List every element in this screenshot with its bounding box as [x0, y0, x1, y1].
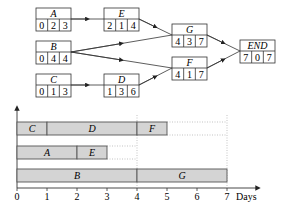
node-value: 6 [131, 86, 136, 97]
arrow-icon [71, 52, 122, 60]
node-value: 3 [187, 36, 192, 47]
node-title: F [185, 57, 193, 68]
node-value: 2 [107, 20, 112, 31]
node-a: A023 [36, 8, 71, 31]
x-tick-label: 2 [75, 191, 80, 202]
node-value: 2 [51, 20, 56, 31]
bar-label: E [88, 147, 95, 158]
node-title: END [247, 40, 269, 51]
node-c: C013 [36, 74, 71, 97]
bar-label: G [178, 170, 185, 181]
node-value: 4 [131, 20, 136, 31]
node-value: 7 [199, 36, 204, 47]
diagram-canvas: A023B044C013E214D136G437F417END707 01234… [0, 0, 288, 214]
gantt-row: AE [17, 146, 137, 159]
x-tick-label: 6 [195, 191, 200, 202]
node-title: A [49, 8, 57, 19]
node-value: 3 [119, 86, 124, 97]
node-value: 0 [39, 53, 44, 64]
node-value: 4 [175, 69, 180, 80]
node-value: 3 [63, 20, 68, 31]
arrow-icon [207, 60, 224, 69]
node-value: 0 [39, 86, 44, 97]
gantt-row: CDF [17, 122, 227, 135]
x-tick-label: 5 [165, 191, 170, 202]
x-axis-label: Days [236, 191, 257, 202]
node-title: E [117, 8, 124, 19]
node-value: 0 [255, 52, 260, 63]
node-g: G437 [172, 24, 207, 47]
x-tick-label: 7 [225, 191, 230, 202]
network-edges [71, 19, 240, 85]
bar-label: B [74, 170, 80, 181]
node-value: 4 [51, 53, 56, 64]
arrow-icon [207, 35, 224, 43]
node-title: B [50, 41, 56, 52]
x-tick-label: 3 [105, 191, 110, 202]
gantt-row: BG [17, 169, 227, 182]
bar-label: F [148, 123, 156, 134]
node-e: E214 [104, 8, 139, 31]
node-b: B044 [36, 41, 71, 64]
node-value: 1 [119, 20, 124, 31]
node-title: D [117, 74, 126, 85]
node-value: 4 [63, 53, 68, 64]
bar-label: D [87, 123, 96, 134]
bar-label: A [43, 147, 51, 158]
node-value: 1 [107, 86, 112, 97]
arrow-icon [139, 19, 156, 27]
node-title: C [50, 74, 57, 85]
node-value: 0 [39, 20, 44, 31]
x-tick-label: 1 [45, 191, 50, 202]
bar-label: C [29, 123, 36, 134]
node-value: 1 [51, 86, 56, 97]
node-value: 4 [175, 36, 180, 47]
node-title: G [186, 24, 193, 35]
node-f: F417 [172, 57, 207, 80]
node-value: 3 [63, 86, 68, 97]
node-value: 7 [267, 52, 272, 63]
node-d: D136 [104, 74, 139, 97]
arrow-icon [71, 44, 122, 53]
x-tick-label: 4 [135, 191, 140, 202]
node-value: 1 [187, 69, 192, 80]
x-tick-label: 0 [15, 191, 20, 202]
node-value: 7 [243, 52, 248, 63]
node-value: 7 [199, 69, 204, 80]
arrow-icon [139, 77, 156, 86]
gantt-chart: 01234567DaysCDFAEBG [15, 108, 259, 202]
node-end: END707 [240, 40, 275, 63]
